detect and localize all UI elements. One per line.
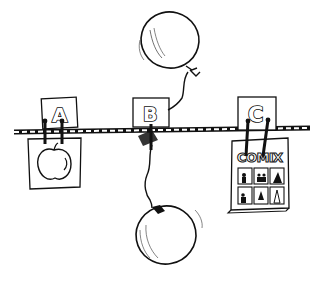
card-c-label: C <box>248 103 263 127</box>
comic-title: COMIX <box>237 150 283 165</box>
card-b-label: B <box>143 103 157 125</box>
clothesline-illustration: A B C <box>0 0 324 281</box>
comic-book: COMIX <box>228 118 289 213</box>
apple-icon <box>38 149 71 179</box>
card-a-label: A <box>52 103 68 127</box>
balloon-lower <box>131 145 202 269</box>
card-b: B <box>133 98 169 150</box>
card-c: C <box>238 97 276 130</box>
balloon-upper <box>135 5 206 110</box>
card-a: A <box>41 97 78 129</box>
